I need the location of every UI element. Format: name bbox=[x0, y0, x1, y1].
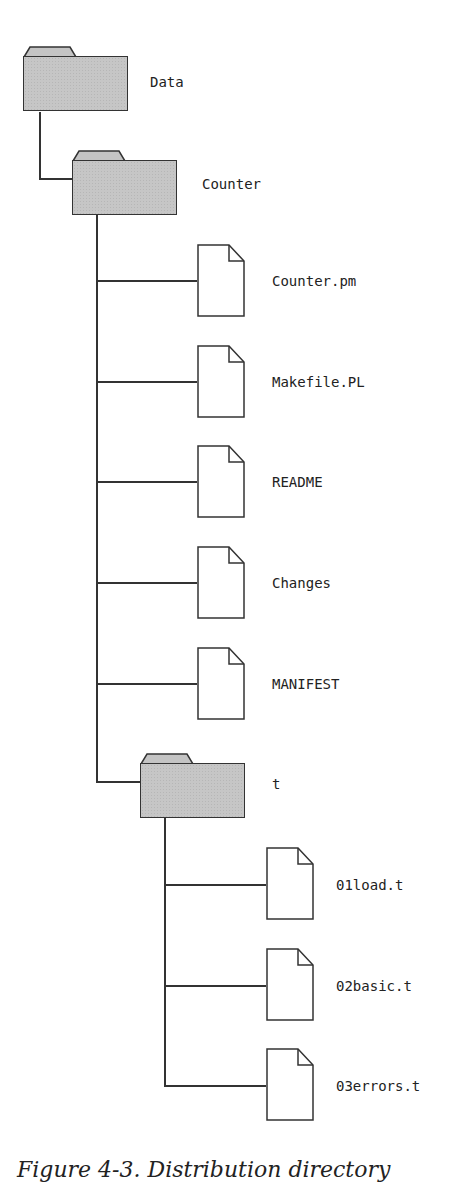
figure-caption: Figure 4-3. Distribution directory bbox=[17, 1157, 390, 1183]
connector-data-trunk bbox=[39, 112, 41, 180]
label-readme: README bbox=[272, 474, 323, 490]
file-icon-readme[interactable] bbox=[197, 445, 245, 518]
folder-body bbox=[23, 56, 128, 111]
file-icon-makefile[interactable] bbox=[197, 345, 245, 418]
connector-t-trunk bbox=[164, 818, 166, 1086]
label-01load: 01load.t bbox=[336, 877, 403, 893]
label-manifest: MANIFEST bbox=[272, 676, 339, 692]
connector-01load bbox=[164, 884, 266, 886]
file-icon-02basic[interactable] bbox=[266, 948, 314, 1021]
connector-makefile bbox=[96, 381, 197, 383]
label-makefile: Makefile.PL bbox=[272, 374, 365, 390]
file-icon-changes[interactable] bbox=[197, 546, 245, 619]
folder-body bbox=[140, 763, 245, 818]
connector-changes bbox=[96, 582, 197, 584]
file-icon-03errors[interactable] bbox=[266, 1048, 314, 1121]
file-icon-01load[interactable] bbox=[266, 847, 314, 920]
connector-counter-pm bbox=[96, 280, 197, 282]
connector-03errors bbox=[164, 1085, 266, 1087]
connector-02basic bbox=[164, 985, 266, 987]
label-changes: Changes bbox=[272, 575, 331, 591]
folder-body bbox=[72, 160, 177, 215]
label-counter-pm: Counter.pm bbox=[272, 273, 356, 289]
file-icon-manifest[interactable] bbox=[197, 647, 245, 720]
label-03errors: 03errors.t bbox=[336, 1078, 420, 1094]
connector-readme bbox=[96, 481, 197, 483]
label-counter: Counter bbox=[202, 176, 261, 192]
connector-t-folder bbox=[96, 781, 140, 783]
connector-manifest bbox=[96, 683, 197, 685]
label-t: t bbox=[272, 776, 280, 792]
connector-data-to-counter bbox=[39, 178, 73, 180]
connector-counter-trunk bbox=[96, 215, 98, 782]
label-02basic: 02basic.t bbox=[336, 978, 412, 994]
label-data: Data bbox=[150, 74, 184, 90]
file-icon-counter-pm[interactable] bbox=[197, 244, 245, 317]
